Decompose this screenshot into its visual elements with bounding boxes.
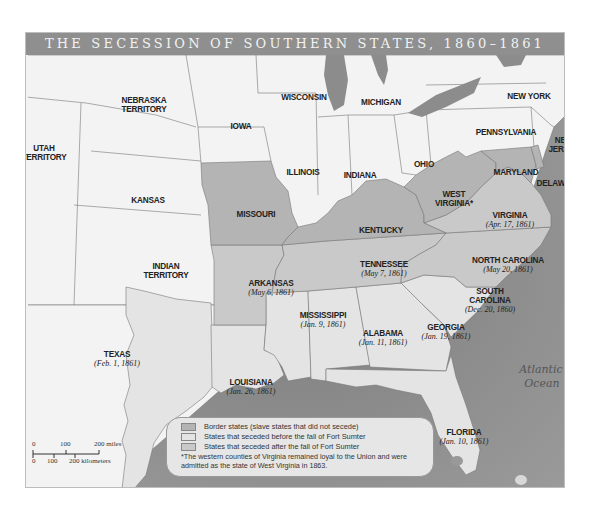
- state-name: GEORGIA: [427, 323, 465, 332]
- map-frame: THE SECESSION OF SOUTHERN STATES, 1860–1…: [25, 32, 565, 488]
- state-name: DELAWARE: [537, 179, 565, 188]
- state-name: IOWA: [230, 122, 251, 131]
- state-label-nebraska: NEBRASKATERRITORY: [121, 96, 167, 114]
- state-name: ARKANSAS: [249, 279, 295, 288]
- state-label-wisconsin: WISCONSIN: [281, 93, 327, 102]
- state-label-new-york: NEW YORK: [507, 92, 551, 101]
- state-name: FLORIDA: [447, 428, 482, 437]
- state-name: NEW: [555, 136, 565, 145]
- legend-swatch-after: [181, 443, 196, 451]
- state-label-illinois: ILLINOIS: [287, 168, 321, 177]
- scale-miles-100: 100: [60, 440, 71, 448]
- legend-item-seceded-before: States that seceded before the fall of F…: [181, 432, 423, 441]
- secession-date: (Jan. 19, 1861): [422, 332, 471, 341]
- state-label-louisiana: LOUISIANA(Jan. 26, 1861): [227, 378, 276, 396]
- scale-km-200: 200 kilometers: [69, 457, 111, 465]
- state-name: TEXAS: [104, 350, 131, 359]
- state-name: KENTUCKY: [359, 226, 404, 235]
- state-label-missouri: MISSOURI: [237, 210, 276, 219]
- state-name: PENNSYLVANIA: [476, 128, 537, 137]
- state-name-line2: CAROLINA: [469, 296, 511, 305]
- state-name: NEW YORK: [507, 92, 551, 101]
- legend-item-border-states: Border states (slave states that did not…: [181, 422, 423, 431]
- scale-miles-0: 0: [32, 440, 36, 448]
- legend-label: States that seceded after the fall of Fo…: [204, 442, 359, 451]
- legend-swatch-before: [181, 433, 196, 441]
- secession-date: (Jan. 10, 1861): [440, 437, 489, 446]
- state-label-virginia: VIRGINIA(Apr. 17, 1861): [486, 211, 535, 229]
- state-label-ohio: OHIO: [414, 160, 435, 169]
- state-label-pennsylvania: PENNSYLVANIA: [476, 128, 537, 137]
- state-label-florida: FLORIDA(Jan. 10, 1861): [440, 428, 489, 446]
- state-name: KANSAS: [131, 196, 165, 205]
- scale-bar: 0 100 200 miles 0 100 200 kilometers: [32, 440, 152, 480]
- state-name-line2: JERSEY: [548, 145, 565, 154]
- state-name: NORTH CAROLINA: [472, 256, 544, 265]
- state-name: MISSISSIPPI: [300, 311, 347, 320]
- legend-label: States that seceded before the fall of F…: [204, 432, 365, 441]
- state-name: WISCONSIN: [281, 93, 327, 102]
- state-label-iowa: IOWA: [230, 122, 251, 131]
- state-label-michigan: MICHIGAN: [361, 98, 401, 107]
- scale-km-100: 100: [47, 457, 58, 465]
- secession-date: (Jan. 26, 1861): [227, 387, 276, 396]
- secession-date: (May 6, 1861): [248, 288, 294, 297]
- state-name: INDIAN: [152, 262, 179, 271]
- secession-date: (May 20, 1861): [483, 265, 533, 274]
- state-name: OHIO: [414, 160, 435, 169]
- state-label-alabama: ALABAMA(Jan. 11, 1861): [359, 329, 408, 347]
- state-name-line2: TERRITORY: [26, 153, 67, 162]
- state-label-delaware: DELAWARE: [537, 179, 565, 188]
- state-name: ILLINOIS: [287, 168, 321, 177]
- secession-date: (Jan. 9, 1861): [301, 320, 346, 329]
- state-name: UTAH: [33, 144, 55, 153]
- state-label-mississippi: MISSISSIPPI(Jan. 9, 1861): [300, 311, 347, 329]
- state-name-line2: TERRITORY: [121, 105, 167, 114]
- state-name: WEST: [443, 190, 466, 199]
- state-label-indiana: INDIANA: [344, 171, 377, 180]
- state-name: INDIANA: [344, 171, 377, 180]
- secession-date: (Dec. 20, 1860): [465, 305, 516, 314]
- state-name: MARYLAND: [494, 168, 539, 177]
- state-name: NEBRASKA: [122, 96, 167, 105]
- legend-item-seceded-after: States that seceded after the fall of Fo…: [181, 442, 423, 451]
- state-name: SOUTH: [476, 287, 504, 296]
- state-name: LOUISIANA: [229, 378, 273, 387]
- secession-date: (Apr. 17, 1861): [486, 220, 535, 229]
- water-label: Ocean: [524, 377, 559, 390]
- bahamas-island: [515, 475, 527, 485]
- secession-date: (May 7, 1861): [361, 269, 407, 278]
- state-label-tennessee: TENNESSEE(May 7, 1861): [360, 260, 409, 278]
- scale-km-0: 0: [32, 457, 36, 465]
- state-name: TENNESSEE: [360, 260, 409, 269]
- state-label-maryland: MARYLAND: [494, 168, 539, 177]
- state-label-arkansas: ARKANSAS(May 6, 1861): [248, 279, 294, 297]
- state-name: MISSOURI: [237, 210, 276, 219]
- legend-label: Border states (slave states that did not…: [204, 422, 358, 431]
- state-name: VIRGINIA: [493, 211, 528, 220]
- legend-swatch-border: [181, 423, 196, 431]
- state-name: ALABAMA: [363, 329, 403, 338]
- legend-footnote: *The western counties of Virginia remain…: [181, 453, 423, 470]
- state-name-line2: VIRGINIA*: [435, 199, 474, 208]
- state-name-line2: TERRITORY: [143, 271, 189, 280]
- lake-okeechobee: [451, 456, 463, 466]
- secession-date: (Jan. 11, 1861): [359, 338, 408, 347]
- secession-date: (Feb. 1, 1861): [94, 359, 140, 368]
- state-name: MICHIGAN: [361, 98, 401, 107]
- state-label-kentucky: KENTUCKY: [359, 226, 404, 235]
- water-label: Atlantic: [518, 363, 562, 376]
- map-title: THE SECESSION OF SOUTHERN STATES, 1860–1…: [26, 33, 564, 55]
- state-label-kansas: KANSAS: [131, 196, 165, 205]
- scale-miles-200: 200 miles: [94, 440, 121, 448]
- state-label-georgia: GEORGIA(Jan. 19, 1861): [422, 323, 471, 341]
- map-legend: Border states (slave states that did not…: [166, 417, 434, 477]
